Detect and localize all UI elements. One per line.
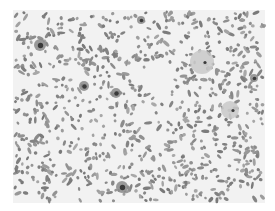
red-blood-cell [139,50,142,54]
nucleated-cell [250,74,258,82]
red-blood-cell [63,107,66,110]
red-blood-cell [30,140,38,143]
nucleated-cell [116,181,128,193]
red-blood-cell [107,81,109,89]
red-blood-cell [141,170,144,173]
red-blood-cell [96,173,99,181]
nucleated-cell [111,88,121,98]
pale-cell [221,101,239,119]
large-pale-cell [190,50,214,74]
red-blood-cell [194,174,197,176]
nucleated-cell [79,81,89,91]
blood-smear-micrograph [0,0,275,211]
red-blood-cell [79,148,83,150]
nucleated-cell [34,39,46,51]
red-blood-cell [261,103,265,107]
nucleated-cell [137,16,145,24]
